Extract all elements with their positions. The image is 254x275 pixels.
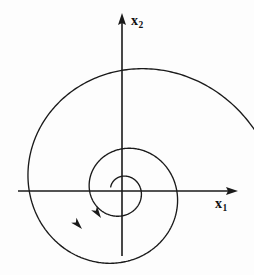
spiral-trajectory: [28, 69, 254, 264]
y-axis-label: x2: [131, 13, 143, 30]
y-axis: [118, 13, 126, 256]
spiral-trajectory-path: [28, 69, 254, 264]
outer-flow-arrow-icon: [71, 218, 84, 232]
phase-portrait-figure: x2 x1: [0, 0, 254, 275]
x-axis-label: x1: [215, 196, 227, 213]
inner-flow-arrow-icon: [91, 206, 104, 220]
phase-portrait-canvas: [0, 0, 254, 275]
x-axis: [18, 187, 238, 195]
x-axis-label-subscript: 1: [222, 203, 227, 213]
x-axis-label-base: x: [215, 196, 222, 211]
flow-direction-arrows: [71, 206, 104, 231]
y-axis-label-subscript: 2: [138, 20, 143, 30]
y-axis-label-base: x: [131, 13, 138, 28]
